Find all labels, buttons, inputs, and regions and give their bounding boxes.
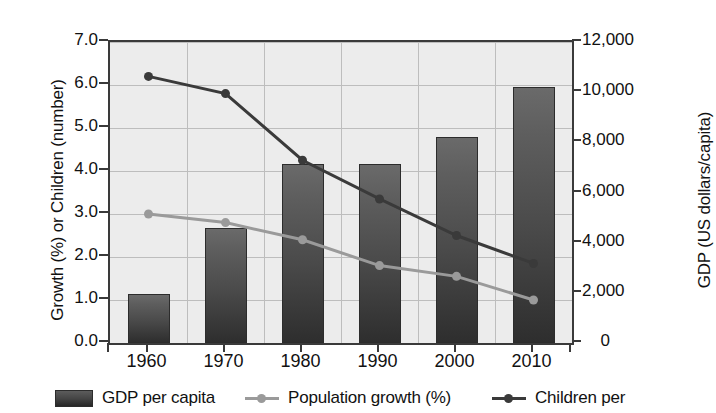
left-tick-mark [99, 340, 108, 342]
right-tick-label: 6,000 [582, 182, 660, 199]
data-point [221, 89, 230, 98]
data-point [452, 272, 461, 281]
right-tick-label: 4,000 [582, 232, 660, 249]
data-point [221, 218, 230, 227]
plot-inner [110, 42, 572, 343]
right-tick-label: 10,000 [582, 81, 660, 98]
legend-item[interactable]: Population growth (%) [245, 388, 451, 408]
left-tick-mark [99, 168, 108, 170]
left-tick-label: 6.0 [38, 74, 98, 91]
data-point [375, 194, 384, 203]
data-point [375, 261, 384, 270]
line-path [149, 76, 534, 263]
line-series-layer [110, 42, 572, 343]
plot-area [108, 40, 574, 345]
left-tick-label: 1.0 [38, 289, 98, 306]
legend-label: GDP per capita [102, 388, 215, 408]
legend-line-marker-icon [492, 392, 526, 404]
data-point [144, 210, 153, 219]
left-tick-mark [99, 254, 108, 256]
left-tick-label: 5.0 [38, 117, 98, 134]
left-tick-mark [99, 297, 108, 299]
right-axis-title: GDP (US dollars/capita) [695, 50, 715, 350]
left-tick-mark [99, 39, 108, 41]
left-tick-mark [99, 211, 108, 213]
legend-bar-swatch-icon [55, 390, 93, 407]
right-tick-label: 2,000 [582, 282, 660, 299]
line-series-population-growth [144, 210, 538, 305]
left-tick-label: 4.0 [38, 160, 98, 177]
x-tick-label: 1960 [107, 351, 187, 371]
x-tick-label: 2010 [492, 351, 572, 371]
line-series-children-per [144, 72, 538, 268]
legend-item[interactable]: Children per [492, 388, 625, 408]
right-tick-label: 8,000 [582, 131, 660, 148]
left-tick-label: 0.0 [38, 332, 98, 349]
x-tick-label: 2000 [415, 351, 495, 371]
data-point [298, 156, 307, 165]
left-tick-mark [99, 82, 108, 84]
x-tick-label: 1970 [184, 351, 264, 371]
legend-item[interactable]: GDP per capita [55, 388, 215, 408]
line-path [149, 214, 534, 300]
data-point [529, 259, 538, 268]
left-tick-mark [99, 125, 108, 127]
data-point [452, 231, 461, 240]
x-tick-label: 1980 [261, 351, 341, 371]
left-tick-label: 3.0 [38, 203, 98, 220]
right-tick-label: 12,000 [582, 31, 660, 48]
chart-figure: Growth (%) or Children (number) GDP (US … [0, 0, 716, 413]
data-point [144, 72, 153, 81]
legend-label: Population growth (%) [288, 388, 451, 408]
left-tick-label: 2.0 [38, 246, 98, 263]
data-point [529, 296, 538, 305]
chart-legend: GDP per capitaPopulation growth (%)Child… [0, 383, 716, 413]
left-tick-label: 7.0 [38, 31, 98, 48]
data-point [298, 235, 307, 244]
legend-line-marker-icon [245, 392, 279, 404]
right-tick-label: 0 [582, 332, 610, 349]
legend-label: Children per [535, 388, 625, 408]
x-tick-label: 1990 [338, 351, 418, 371]
